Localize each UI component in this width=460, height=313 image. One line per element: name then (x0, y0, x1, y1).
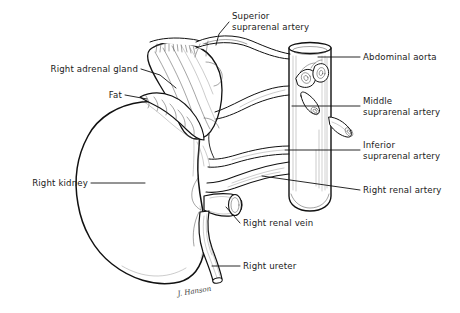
label-right-adrenal-gland: Right adrenal gland (51, 64, 138, 74)
label-abdominal-aorta: Abdominal aorta (363, 52, 437, 62)
label-line: Right renal artery (363, 185, 442, 195)
label-right-renal-artery: Right renal artery (363, 185, 442, 195)
label-line: Abdominal aorta (363, 52, 437, 62)
illustration-canvas: Superior suprarenal artery Abdominal aor… (0, 0, 460, 313)
label-line: suprarenal artery (232, 22, 309, 32)
label-line: Inferior (363, 140, 396, 150)
label-line: Right adrenal gland (51, 64, 138, 74)
label-right-ureter: Right ureter (243, 261, 297, 271)
aorta-cut-top (289, 43, 331, 54)
label-right-renal-vein: Right renal vein (243, 218, 313, 228)
aorta-stump-b (313, 64, 329, 83)
label-line: suprarenal artery (363, 151, 440, 161)
label-line: Superior (232, 11, 270, 21)
label-line: suprarenal artery (363, 107, 440, 117)
label-right-kidney: Right kidney (32, 178, 88, 188)
anatomical-illustration: Superior suprarenal artery Abdominal aor… (0, 0, 460, 313)
label-fat: Fat (109, 90, 123, 100)
label-line: Fat (109, 90, 123, 100)
label-line: Right renal vein (243, 218, 313, 228)
label-line: Right kidney (32, 178, 88, 188)
label-line: Right ureter (243, 261, 297, 271)
label-line: Middle (363, 96, 392, 106)
right-renal-vein-structure (204, 194, 242, 217)
